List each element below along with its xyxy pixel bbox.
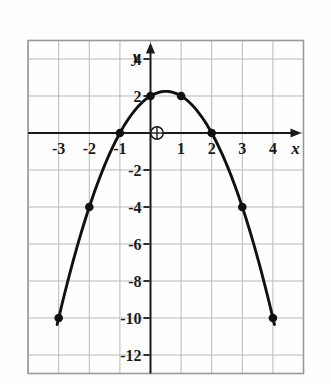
data-point bbox=[116, 129, 125, 138]
y-axis-label: y bbox=[131, 47, 141, 66]
y-tick-label-neg4: -4 bbox=[128, 199, 141, 216]
x-axis-label: x bbox=[290, 139, 300, 158]
data-point bbox=[54, 314, 63, 323]
graph-figure: -3-2-1123442-2-4-6-8-10-12yx bbox=[0, 0, 331, 384]
data-point bbox=[269, 314, 278, 323]
x-tick-label-4: 4 bbox=[269, 140, 277, 157]
data-point bbox=[207, 129, 216, 138]
x-tick-label-2: 2 bbox=[208, 140, 216, 157]
data-point bbox=[85, 203, 94, 212]
x-tick-label-neg3: -3 bbox=[52, 140, 65, 157]
y-tick-label-2: 2 bbox=[134, 88, 142, 105]
origin-marker bbox=[151, 127, 163, 139]
y-tick-label-neg6: -6 bbox=[128, 236, 141, 253]
y-tick-label-neg12: -12 bbox=[120, 347, 141, 364]
tick-marks bbox=[144, 59, 150, 355]
data-point bbox=[238, 203, 247, 212]
x-tick-label-neg1: -1 bbox=[113, 140, 126, 157]
data-point bbox=[177, 92, 186, 101]
x-tick-label-1: 1 bbox=[177, 140, 185, 157]
x-tick-label-neg2: -2 bbox=[83, 140, 96, 157]
x-tick-label-3: 3 bbox=[238, 140, 246, 157]
y-tick-label-neg2: -2 bbox=[128, 162, 141, 179]
y-tick-label-neg8: -8 bbox=[128, 273, 141, 290]
coordinate-plane: -3-2-1123442-2-4-6-8-10-12yx bbox=[0, 0, 331, 384]
y-tick-label-neg10: -10 bbox=[120, 310, 141, 327]
data-point bbox=[146, 92, 155, 101]
